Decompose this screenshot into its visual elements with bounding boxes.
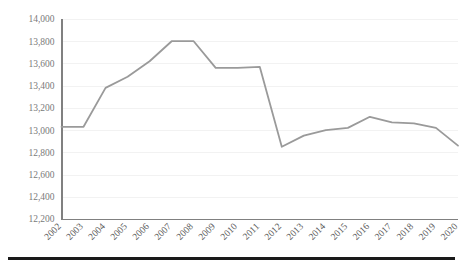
y-axis-tick-label: 14,000 xyxy=(28,14,54,24)
x-axis-tick-label: 2012 xyxy=(263,221,284,242)
x-axis-tick-labels: 2002200320042005200620072008200920102011… xyxy=(42,221,459,242)
y-axis-tick-label: 12,400 xyxy=(28,192,54,202)
y-axis-tick-label: 13,000 xyxy=(28,126,54,136)
x-axis-tick-label: 2008 xyxy=(175,221,196,242)
x-axis-tick-label: 2010 xyxy=(219,221,240,242)
chart-container: 12,20012,40012,60012,80013,00013,20013,4… xyxy=(0,0,464,267)
y-axis-tick-label: 13,600 xyxy=(28,59,54,69)
x-axis-tick-label: 2004 xyxy=(86,221,107,242)
y-axis-tick-label: 13,800 xyxy=(28,37,54,47)
y-axis-tick-label: 12,200 xyxy=(28,214,54,224)
x-axis-tick-label: 2016 xyxy=(351,221,372,242)
y-axis-tick-label: 12,600 xyxy=(28,170,54,180)
y-axis-tick-label: 13,200 xyxy=(28,103,54,113)
x-axis-tick-label: 2003 xyxy=(64,221,85,242)
gridlines xyxy=(62,20,459,198)
axis-lines xyxy=(62,19,458,220)
y-axis-tick-label: 13,400 xyxy=(28,81,54,91)
x-axis-tick-label: 2015 xyxy=(329,221,350,242)
x-axis-tick-label: 2020 xyxy=(439,221,460,242)
y-axis-tick-label: 12,800 xyxy=(28,148,54,158)
x-axis-tick-label: 2007 xyxy=(153,221,174,242)
x-axis-tick-label: 2018 xyxy=(395,221,416,242)
x-axis-tick-label: 2011 xyxy=(241,221,261,241)
x-axis-tick-label: 2019 xyxy=(417,221,438,242)
x-axis-tick-label: 2013 xyxy=(285,221,306,242)
line-chart: 12,20012,40012,60012,80013,00013,20013,4… xyxy=(0,0,464,267)
x-axis-tick-label: 2017 xyxy=(373,221,394,242)
x-axis-tick-label: 2005 xyxy=(108,221,129,242)
x-axis-tick-label: 2006 xyxy=(131,221,152,242)
x-axis-tick-label: 2014 xyxy=(307,221,328,242)
y-axis-tick-labels: 12,20012,40012,60012,80013,00013,20013,4… xyxy=(28,14,54,224)
x-axis-tick-label: 2009 xyxy=(197,221,218,242)
